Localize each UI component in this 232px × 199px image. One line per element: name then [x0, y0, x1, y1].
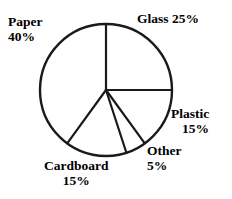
slice-label-other: Other 5% — [147, 143, 182, 173]
slice-label-plastic: Plastic 15% — [171, 106, 209, 136]
slice-label-cardboard-value: 15% — [44, 173, 109, 188]
slice-label-paper-name: Paper — [8, 14, 43, 29]
slice-label-paper-value: 40% — [8, 29, 43, 44]
pie-slices — [40, 24, 172, 156]
pie-chart-figure: Paper 40% Glass 25% Plastic 15% Other 5%… — [0, 0, 232, 199]
slice-label-cardboard-name: Cardboard — [44, 158, 109, 173]
slice-label-cardboard: Cardboard 15% — [44, 158, 109, 188]
slice-label-plastic-name: Plastic — [171, 106, 209, 121]
slice-label-paper: Paper 40% — [8, 14, 43, 44]
slice-label-glass-text: Glass 25% — [137, 11, 199, 26]
slice-label-other-name: Other — [147, 143, 182, 158]
slice-label-plastic-value: 15% — [171, 121, 209, 136]
slice-label-other-value: 5% — [147, 158, 182, 173]
slice-label-glass: Glass 25% — [137, 11, 199, 26]
